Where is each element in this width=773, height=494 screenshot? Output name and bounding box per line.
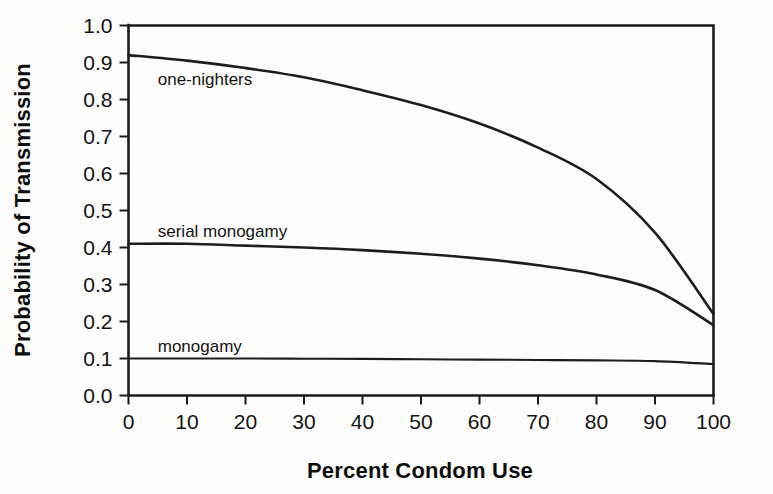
y-tick-label-0.6: 0.6 (83, 162, 112, 185)
x-tick-label-40: 40 (351, 410, 374, 433)
x-tick-label-10: 10 (175, 410, 198, 433)
x-tick-label-0: 0 (123, 410, 135, 433)
y-tick-label-0.7: 0.7 (83, 125, 112, 148)
y-tick-label-0.4: 0.4 (83, 236, 113, 259)
x-tick-label-20: 20 (234, 410, 257, 433)
y-tick-label-0.3: 0.3 (83, 273, 112, 296)
x-tick-label-70: 70 (526, 410, 549, 433)
probability-of-transmission-line-chart: 0.00.10.20.30.40.50.60.70.80.91.0 010203… (0, 0, 773, 494)
y-tick-label-0.1: 0.1 (83, 347, 112, 370)
x-tick-label-80: 80 (585, 410, 608, 433)
x-tick-label-100: 100 (696, 410, 731, 433)
y-tick-label-0.5: 0.5 (83, 199, 112, 222)
y-tick-label-1.0: 1.0 (83, 14, 112, 37)
y-axis-title: Probability of Transmission (10, 63, 35, 357)
y-tick-label-0.0: 0.0 (83, 384, 112, 407)
y-tick-label-0.8: 0.8 (83, 88, 112, 111)
x-tick-label-50: 50 (409, 410, 432, 433)
chart-figure: 0.00.10.20.30.40.50.60.70.80.91.0 010203… (0, 0, 773, 494)
y-tick-label-0.2: 0.2 (83, 310, 112, 333)
x-axis-title: Percent Condom Use (307, 458, 533, 483)
x-tick-label-90: 90 (643, 410, 666, 433)
series-label-one-nighters: one-nighters (158, 70, 253, 89)
series-label-serial-monogamy: serial monogamy (158, 222, 288, 241)
x-tick-label-60: 60 (468, 410, 491, 433)
series-label-monogamy: monogamy (158, 337, 243, 356)
y-tick-label-0.9: 0.9 (83, 51, 112, 74)
x-tick-label-30: 30 (292, 410, 315, 433)
